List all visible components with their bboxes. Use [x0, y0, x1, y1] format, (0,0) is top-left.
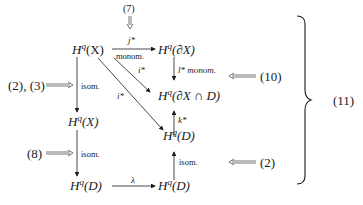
node-HqdX: Hq(∂X) — [158, 42, 195, 56]
ref-top: (7) — [123, 4, 135, 14]
right-brace — [297, 16, 311, 184]
label-isom-left-top: isom. — [81, 82, 100, 91]
arrow-i-star — [98, 58, 163, 130]
arrow-i-tilde-star — [114, 58, 150, 92]
ref-right-upper: (10) — [260, 70, 282, 83]
node-HqhD: Hq(D) — [70, 178, 102, 192]
ref-left-lower: (8) — [27, 147, 42, 160]
node-HqdXD: Hq(∂X ∩ D) — [158, 88, 220, 102]
label-i-star: i* — [117, 92, 124, 101]
node-HqdD: Hq(D) — [158, 178, 190, 192]
label-l-star: l* monom. — [178, 66, 216, 75]
node-HqhX: Hq(X) — [68, 114, 99, 128]
label-isom-right: isom. — [179, 158, 198, 167]
equation-number: (11) — [333, 94, 354, 107]
label-i-tilde-star: i* — [138, 66, 145, 75]
ref-left-upper: (2), (3) — [8, 79, 45, 92]
label-isom-left-bottom: isom. — [81, 150, 100, 159]
node-HqX: Hq(X) — [72, 42, 104, 56]
label-j-star: j* — [128, 36, 135, 45]
label-lambda: λ — [131, 176, 135, 185]
label-monom-top: monom. — [116, 52, 144, 61]
node-HqD: Hq(D) — [163, 128, 195, 142]
label-k-star: k* — [178, 116, 187, 125]
ref-right-lower: (2) — [260, 156, 275, 169]
